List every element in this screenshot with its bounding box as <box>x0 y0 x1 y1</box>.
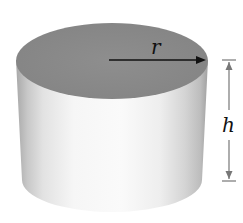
cylinder-diagram: r h <box>0 0 243 223</box>
height-label: h <box>222 113 235 137</box>
cylinder-top <box>16 23 208 99</box>
radius-label: r <box>151 35 162 59</box>
